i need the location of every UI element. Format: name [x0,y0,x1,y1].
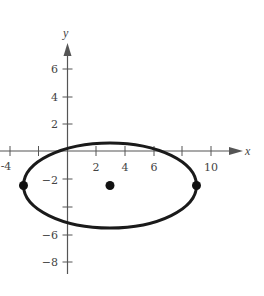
svg-text:4: 4 [51,91,58,104]
y-axis-label: y [62,26,69,40]
svg-text:2: 2 [51,118,58,131]
svg-text:10: 10 [204,161,218,174]
svg-text:4: 4 [122,161,129,174]
left-vertex-point [19,181,28,190]
x-axis-arrow-icon [229,147,243,155]
svg-text:2: 2 [93,161,100,174]
ellipse-graph: x y -4 2 4 6 10 6 4 2 −2 −6 −8 [0,0,264,296]
svg-text:6: 6 [151,161,158,174]
svg-text:-4: -4 [1,160,12,173]
y-tick-labels: 6 4 2 −2 −6 −8 [42,63,58,269]
right-vertex-point [192,181,201,190]
svg-text:−6: −6 [42,229,58,242]
center-point [106,181,115,190]
svg-text:6: 6 [51,63,58,76]
svg-text:−2: −2 [42,174,58,187]
svg-text:−8: −8 [42,256,58,269]
y-axis-arrow-icon [64,43,72,56]
x-axis-label: x [244,144,251,158]
